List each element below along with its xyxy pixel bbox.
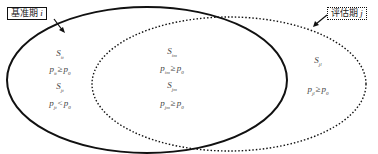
base-period-ellipse: [7, 7, 287, 153]
set-s-jl: Sjl: [314, 55, 321, 67]
set-s-jm: Sjm: [167, 80, 177, 92]
condition-p-jm: pjm≥p0: [160, 98, 183, 110]
condition-p-it: pit≥p0: [49, 64, 70, 76]
condition-p-jt: pjt<p0: [49, 98, 70, 110]
venn-diagram: [0, 0, 378, 154]
eval-period-var: j: [360, 8, 363, 18]
set-s-it: Sit: [56, 48, 63, 60]
eval-period-text: 评估期: [331, 8, 358, 18]
eval-period-label: 评估期 j: [327, 7, 367, 20]
condition-p-jl: pjl≥p0: [307, 84, 328, 96]
base-period-label: 基准期 i: [7, 7, 47, 20]
base-period-text: 基准期: [11, 8, 38, 18]
base-period-var: i: [40, 8, 43, 18]
set-s-im: Sim: [167, 46, 177, 58]
eval-label-arrow: [313, 15, 327, 27]
set-s-jt: Sjt: [56, 81, 63, 93]
condition-p-im: pim≥p0: [160, 63, 183, 75]
